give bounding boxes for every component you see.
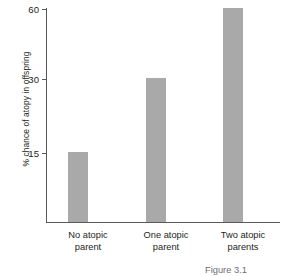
y-tick-label: 30 — [28, 74, 39, 85]
plot-area: 60 30 15 No atopic parent One atopic par… — [46, 8, 280, 223]
bar-two-atopic-parents — [223, 8, 243, 222]
y-tick-mark — [42, 153, 46, 154]
bar-one-atopic-parent — [146, 78, 166, 222]
y-axis-title: % chance of atopy in offspring — [21, 19, 31, 199]
x-category-label-2: Two atopic parents — [193, 230, 284, 253]
x-axis-line — [46, 222, 280, 223]
y-tick-label: 60 — [28, 4, 39, 15]
y-tick-label: 15 — [28, 148, 39, 159]
bar-no-atopic-parent — [68, 152, 88, 222]
chart-figure: % chance of atopy in offspring 60 30 15 … — [0, 0, 284, 276]
y-axis-line — [46, 8, 47, 223]
figure-caption: Figure 3.1 — [205, 265, 247, 275]
y-tick-mark — [42, 9, 46, 10]
y-tick-mark — [42, 79, 46, 80]
